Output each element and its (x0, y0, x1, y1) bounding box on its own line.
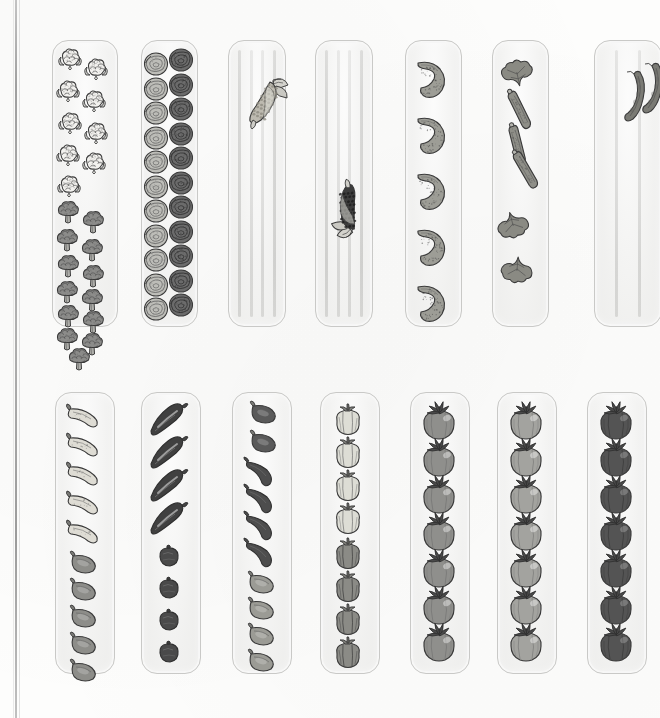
tomato-fruit (508, 444, 546, 480)
cauliflower-plant (55, 143, 83, 169)
squash-leaf (499, 256, 539, 288)
tomato-fruit (508, 629, 546, 665)
squash-leaf (495, 211, 535, 243)
banana-pepper-fruit (63, 490, 103, 518)
banana-pepper-fruit (63, 461, 103, 489)
green-cabbage-plant (143, 223, 169, 249)
tomato-fruit (598, 444, 636, 480)
green-cabbage-plant (143, 174, 169, 200)
bed-plants (595, 41, 660, 326)
zucchini-fruit (497, 101, 543, 121)
red-cabbage-plant (168, 170, 194, 196)
cayenne-chile-fruit (243, 459, 279, 489)
cucumber-fruit (412, 227, 454, 269)
garden-bed-bean-bed (594, 40, 660, 327)
tomato-fruit (598, 407, 636, 443)
yellow-bell-pepper-fruit (332, 440, 366, 472)
tomato-fruit (421, 407, 459, 443)
red-cabbage-plant (168, 145, 194, 171)
bed-plants (229, 41, 285, 326)
popcorn-ear (320, 181, 372, 241)
sweet-corn-ear (243, 76, 293, 134)
illustration-page (0, 0, 660, 718)
red-cabbage-plant (168, 121, 194, 147)
round-hot-pepper-fruit (156, 609, 184, 633)
jalapeno-pepper-fruit (65, 551, 103, 577)
dark-jalapeno-fruit (245, 401, 283, 427)
yellow-bell-pepper-fruit (332, 473, 366, 505)
broccoli-plant (56, 253, 82, 279)
tomato-fruit (508, 555, 546, 591)
green-cabbage-plant (143, 51, 169, 77)
garden-bed-tomato-bed-b (497, 392, 557, 674)
cayenne-chile-fruit (243, 513, 279, 543)
bed-plants (316, 41, 372, 326)
garden-bed-cauliflower-and-broccoli-bed (52, 40, 118, 327)
garden-bed-bell-pepper-bed (320, 392, 380, 674)
garden-bed-mixed-hot-pepper-bed (232, 392, 292, 674)
jalapeno-pepper-fruit (65, 632, 103, 658)
cauliflower-plant (56, 174, 84, 200)
green-cabbage-plant (143, 125, 169, 151)
red-cabbage-plant (168, 194, 194, 220)
green-cabbage-plant (143, 76, 169, 102)
garden-bed-dark-chile-pepper-bed (141, 392, 201, 674)
red-bell-pepper-fruit (332, 607, 366, 639)
poblano-chile-fruit (146, 500, 192, 538)
red-bell-pepper-fruit (332, 640, 366, 672)
binding-line-outer (13, 0, 14, 718)
red-cabbage-plant (168, 292, 194, 318)
red-cabbage-plant (168, 96, 194, 122)
banana-pepper-fruit (63, 432, 103, 460)
cauliflower-plant (81, 89, 109, 115)
tomato-fruit (598, 518, 636, 554)
green-cabbage-plant (143, 247, 169, 273)
cucumber-fruit (412, 115, 454, 157)
broccoli-plant (81, 209, 107, 235)
banana-pepper-fruit (63, 403, 103, 431)
red-cabbage-plant (168, 219, 194, 245)
pale-jalapeno-fruit (243, 623, 281, 649)
bed-plants (321, 393, 379, 673)
yellow-bell-pepper-fruit (332, 506, 366, 538)
tomato-fruit (421, 481, 459, 517)
garden-bed-popcorn-bed (315, 40, 373, 327)
green-cabbage-plant (143, 198, 169, 224)
bed-plants (411, 393, 469, 673)
tomato-fruit (598, 481, 636, 517)
binding-line (15, 0, 17, 718)
round-hot-pepper-fruit (156, 577, 184, 601)
yellow-bell-pepper-fruit (332, 407, 366, 439)
round-hot-pepper-fruit (156, 641, 184, 665)
pale-jalapeno-fruit (243, 649, 281, 675)
red-cabbage-plant (168, 72, 194, 98)
banana-pepper-fruit (63, 519, 103, 547)
broccoli-plant (81, 263, 107, 289)
tomato-fruit (598, 592, 636, 628)
bed-plants (56, 393, 114, 673)
jalapeno-pepper-fruit (65, 659, 103, 685)
cauliflower-plant (57, 111, 85, 137)
bean-pod (639, 61, 660, 119)
cucumber-fruit (412, 283, 454, 325)
broccoli-plant (55, 227, 81, 253)
garden-bed-cabbage-bed (141, 40, 198, 327)
garden-bed-tomato-bed-c (587, 392, 647, 674)
garden-bed-zucchini-squash-bed (492, 40, 549, 327)
garden-bed-cucumber-bed (405, 40, 462, 327)
cauliflower-plant (83, 57, 111, 83)
zucchini-fruit (503, 161, 549, 181)
red-cabbage-plant (168, 47, 194, 73)
tomato-fruit (508, 407, 546, 443)
tomato-fruit (421, 518, 459, 554)
bed-plants (588, 393, 646, 673)
tomato-fruit (421, 555, 459, 591)
broccoli-plant (80, 237, 106, 263)
broccoli-plant (55, 279, 81, 305)
cucumber-fruit (412, 59, 454, 101)
tomato-fruit (508, 592, 546, 628)
tomato-fruit (421, 444, 459, 480)
squash-leaf (499, 59, 539, 91)
red-bell-pepper-fruit (332, 541, 366, 573)
tomato-fruit (421, 592, 459, 628)
